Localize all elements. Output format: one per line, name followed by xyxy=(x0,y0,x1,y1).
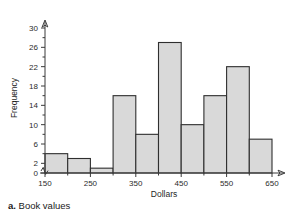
x-tick-labels: 150250350450550650 xyxy=(38,179,279,188)
histogram-bar xyxy=(204,96,227,173)
y-tick-label: 22 xyxy=(29,63,38,72)
book-values-histogram: 026101418222630 150250350450550650 Dolla… xyxy=(0,0,296,200)
y-tick-labels: 026101418222630 xyxy=(29,24,38,178)
y-tick-label: 2 xyxy=(34,159,39,168)
histogram-bar xyxy=(45,154,68,173)
y-tick-label: 18 xyxy=(29,82,38,91)
histogram-bar xyxy=(68,159,91,174)
x-tick-label: 250 xyxy=(84,179,98,188)
y-tick-label: 6 xyxy=(34,140,39,149)
histogram-figure: 026101418222630 150250350450550650 Dolla… xyxy=(0,0,296,221)
x-tick-marks xyxy=(45,173,272,177)
y-tick-label: 14 xyxy=(29,101,38,110)
caption-text: Book values xyxy=(19,200,71,211)
x-tick-label: 550 xyxy=(220,179,234,188)
histogram-bar xyxy=(113,96,136,173)
histogram-bar xyxy=(181,125,204,173)
figure-caption: a. Book values xyxy=(8,200,70,211)
x-tick-label: 150 xyxy=(38,179,52,188)
x-tick-label: 350 xyxy=(129,179,143,188)
bars-group xyxy=(45,43,272,174)
y-tick-marks xyxy=(41,28,45,173)
x-axis-title: Dollars xyxy=(151,189,177,199)
y-tick-label: 0 xyxy=(34,169,39,178)
y-tick-label: 10 xyxy=(29,121,38,130)
x-axis: 150250350450550650 xyxy=(38,170,285,188)
histogram-bar xyxy=(90,168,113,173)
x-tick-label: 650 xyxy=(265,179,279,188)
y-axis-title: Frequency xyxy=(9,77,19,118)
y-tick-label: 26 xyxy=(29,43,38,52)
caption-label: a. xyxy=(8,200,16,211)
x-tick-label: 450 xyxy=(175,179,189,188)
histogram-bar xyxy=(159,43,182,174)
histogram-bar xyxy=(136,134,159,173)
histogram-bar xyxy=(227,67,250,173)
y-axis: 026101418222630 xyxy=(29,20,48,178)
histogram-bar xyxy=(249,139,272,173)
y-tick-label: 30 xyxy=(29,24,38,33)
